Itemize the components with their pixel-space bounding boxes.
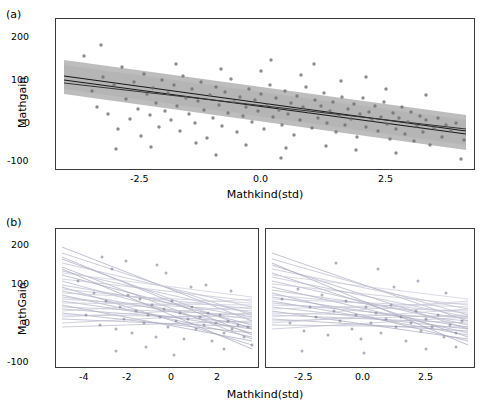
panel-b-tag: (b) (6, 216, 22, 229)
panel-a-tag: (a) (6, 8, 21, 21)
panel-a-ytick-0: 0 (24, 117, 30, 128)
panel-b-right-xtick-0: 0.0 (355, 371, 370, 382)
panel-a-xtick-2-5: 2.5 (378, 173, 393, 184)
panel-b-left-xtick-neg2: -2 (122, 371, 131, 382)
panel-b-right-plot-area (265, 228, 475, 368)
panel-a-fit-line-1 (64, 76, 466, 131)
panel-b-right-spaghetti-lines (272, 253, 468, 345)
panel-a-xtick-0: 0.0 (253, 173, 268, 184)
panel-b-ytick-0: 0 (24, 317, 30, 328)
panel-b-right-xtick-2-5: 2.5 (418, 371, 433, 382)
panel-b-left-xtick-2: 2 (214, 371, 220, 382)
panel-a-ytick-200: 200 (11, 31, 29, 42)
panel-a-svg (56, 19, 474, 169)
panel-b-left-xtick-0: 0 (168, 371, 174, 382)
panel-b-ytick-neg100: -100 (7, 356, 29, 367)
panel-b-ytick-200: 200 (11, 239, 29, 250)
panel-a-xtick-neg2-5: -2.5 (130, 173, 149, 184)
panel-a-x-axis-title: Mathkind(std) (205, 188, 325, 201)
panel-b-left-xtick-neg4: -4 (79, 371, 88, 382)
figure-root: (a) Mathgain 200 100 0 -100 (0, 0, 496, 409)
panel-b-left-plot-area (55, 228, 259, 368)
panel-b-right-xtick-neg2-5: -2.5 (294, 371, 313, 382)
panel-b-x-axis-title: Mathkind(std) (205, 388, 325, 401)
panel-a-ytick-neg100: -100 (7, 155, 29, 166)
panel-b-ytick-100: 100 (11, 278, 29, 289)
panel-a-plot-area (55, 18, 475, 170)
panel-b-left-svg (56, 229, 258, 367)
panel-b-right-svg (266, 229, 474, 367)
panel-a-ytick-100: 100 (11, 74, 29, 85)
